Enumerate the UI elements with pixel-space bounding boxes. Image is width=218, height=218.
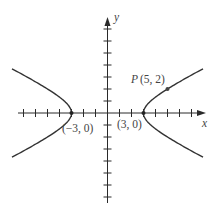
point-p-marker — [166, 87, 170, 91]
hyperbola-diagram: x y (−3, 0) (3, 0) P(5, 2) — [0, 0, 218, 218]
x-axis-arrow-icon — [197, 110, 206, 116]
point-p-coords: (5, 2) — [140, 73, 165, 86]
vertex-left-label: (−3, 0) — [62, 122, 94, 135]
vertex-right-label: (3, 0) — [117, 118, 142, 131]
point-p-label: P(5, 2) — [130, 73, 165, 86]
y-axis-label: y — [113, 11, 120, 24]
y-axis-arrow-icon — [105, 17, 111, 26]
x-axis-label: x — [201, 117, 208, 129]
vertex-right-point — [142, 111, 146, 115]
vertex-left-point — [70, 111, 74, 115]
diagram-canvas: x y (−3, 0) (3, 0) P(5, 2) — [0, 0, 218, 218]
point-p-name: P — [130, 73, 138, 85]
